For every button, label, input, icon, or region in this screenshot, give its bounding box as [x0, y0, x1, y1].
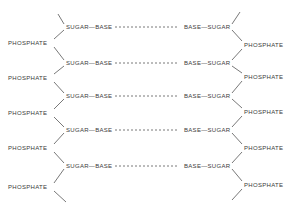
right-phosphate: PHOSPHATE	[244, 42, 283, 48]
dna-diagram: SUGAR—BASEBASE—SUGARSUGAR—BASEBASE—SUGAR…	[0, 0, 291, 222]
right-phosphate: PHOSPHATE	[244, 74, 283, 80]
left-sugar-base: SUGAR—BASE	[66, 93, 112, 99]
right-base-sugar: BASE—SUGAR	[184, 24, 230, 30]
right-phosphate: PHOSPHATE	[244, 109, 283, 115]
left-phosphate: PHOSPHATE	[8, 145, 47, 151]
right-base-sugar: BASE—SUGAR	[184, 60, 230, 66]
left-sugar-base: SUGAR—BASE	[66, 163, 112, 169]
right-phosphate: PHOSPHATE	[244, 145, 283, 151]
right-base-sugar: BASE—SUGAR	[184, 163, 230, 169]
left-phosphate: PHOSPHATE	[8, 184, 47, 190]
right-base-sugar: BASE—SUGAR	[184, 93, 230, 99]
left-phosphate: PHOSPHATE	[8, 75, 47, 81]
left-sugar-base: SUGAR—BASE	[66, 60, 112, 66]
right-phosphate: PHOSPHATE	[244, 182, 283, 188]
left-phosphate: PHOSPHATE	[8, 40, 47, 46]
left-sugar-base: SUGAR—BASE	[66, 24, 112, 30]
left-sugar-base: SUGAR—BASE	[66, 127, 112, 133]
right-base-sugar: BASE—SUGAR	[184, 127, 230, 133]
left-phosphate: PHOSPHATE	[8, 110, 47, 116]
